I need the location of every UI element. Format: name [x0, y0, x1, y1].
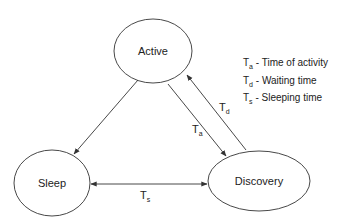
legend: Ta - Time of activity Td - Waiting time … [243, 57, 328, 105]
state-active: Active [114, 19, 192, 83]
state-discovery: Discovery [208, 151, 310, 211]
legend-item-td: Td - Waiting time [243, 75, 317, 88]
state-discovery-label: Discovery [235, 175, 284, 187]
arrow-discovery-to-active [187, 75, 246, 150]
state-sleep-label: Sleep [38, 177, 66, 189]
state-sleep: Sleep [14, 150, 90, 216]
arrow-active-to-discovery [168, 84, 226, 156]
state-diagram: Active Sleep Discovery Ta Td Ts Ta - Tim… [0, 0, 344, 221]
legend-item-ta: Ta - Time of activity [243, 57, 328, 70]
edge-label-ts: Ts [140, 189, 151, 203]
legend-item-ts: Ts - Sleeping time [243, 92, 323, 105]
state-active-label: Active [138, 45, 168, 57]
edge-label-td: Td [219, 101, 230, 115]
arrow-active-to-sleep [74, 80, 138, 154]
